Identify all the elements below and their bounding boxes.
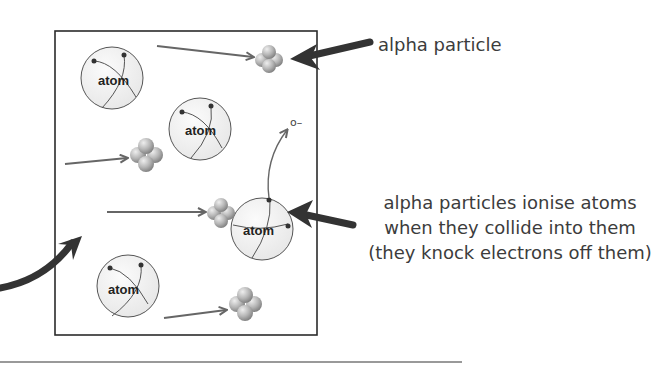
alpha-particle-label: alpha particle xyxy=(378,32,502,57)
alpha-particle-4 xyxy=(229,287,262,321)
alpha-particle-1 xyxy=(255,45,283,73)
atom-label: atom xyxy=(185,123,216,138)
caption-line-3: (they knock electrons off them) xyxy=(345,240,667,265)
atom-4: atom xyxy=(97,255,159,317)
motion-arrow-1 xyxy=(157,46,253,57)
pointer-arrow-ionise xyxy=(287,200,353,228)
atom-label: atom xyxy=(98,73,129,88)
motion-arrow-4 xyxy=(164,310,226,318)
ionisation-caption: alpha particles ionise atoms when they c… xyxy=(345,190,667,265)
atom-label: atom xyxy=(243,223,274,238)
electron-path-arrow xyxy=(268,130,287,198)
caption-line-1: alpha particles ionise atoms xyxy=(345,190,667,215)
alpha-particle-2 xyxy=(130,138,163,172)
atom-2: atom xyxy=(169,98,231,160)
motion-arrow-2 xyxy=(65,158,127,164)
atom-3-ionised: atom xyxy=(231,198,293,261)
caption-line-2: when they collide into them xyxy=(345,215,667,240)
alpha-particle-3 xyxy=(207,198,235,228)
electron-label: o– xyxy=(290,116,302,129)
pointer-arrow-curved xyxy=(0,236,82,288)
atom-label: atom xyxy=(108,282,139,297)
atom-1: atom xyxy=(81,47,143,109)
pointer-arrow-alpha xyxy=(290,42,370,70)
ionisation-diagram: atom atom atom atom xyxy=(0,0,667,365)
